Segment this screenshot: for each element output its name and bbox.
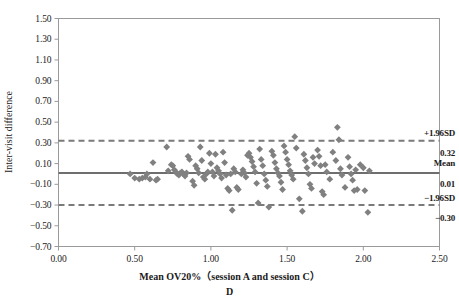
x-axis-tick-marks bbox=[59, 247, 440, 251]
y-tick-label: 1.50 bbox=[35, 14, 51, 24]
x-tick-label: 1.00 bbox=[203, 254, 219, 264]
y-tick-label: 0.30 bbox=[35, 138, 51, 148]
y-tick-label: −0.30 bbox=[30, 200, 51, 210]
y-tick-label: 1.10 bbox=[35, 55, 51, 65]
y-tick-label: 0.10 bbox=[35, 159, 51, 169]
lower-limit-label: −1.96SD bbox=[424, 193, 455, 203]
y-tick-label: 0.50 bbox=[35, 117, 51, 127]
y-tick-label: 0.90 bbox=[35, 76, 51, 86]
x-tick-label: 2.00 bbox=[355, 254, 371, 264]
mean-line-value: 0.01 bbox=[440, 179, 455, 189]
upper-limit-label: +1.96SD bbox=[424, 128, 455, 138]
lower-limit-value: −0.30 bbox=[435, 213, 455, 223]
mean-line-label: Mean bbox=[434, 158, 455, 168]
plot-frame bbox=[59, 19, 440, 247]
x-tick-label: 0.00 bbox=[50, 254, 66, 264]
y-tick-label: −0.50 bbox=[30, 221, 51, 231]
x-tick-label: 0.50 bbox=[127, 254, 143, 264]
plot-canvas bbox=[0, 0, 459, 306]
panel-letter: D bbox=[0, 286, 459, 297]
y-tick-label: −0.70 bbox=[30, 242, 51, 252]
y-axis-title: Inter-visit difference bbox=[3, 91, 14, 173]
x-tick-label: 2.50 bbox=[431, 254, 447, 264]
y-tick-label: 1.30 bbox=[35, 34, 51, 44]
x-axis-title: Mean OV20%（session A and session C） bbox=[0, 268, 459, 283]
y-axis-tick-marks bbox=[55, 19, 59, 247]
upper-limit-value: 0.32 bbox=[440, 148, 455, 158]
x-tick-label: 1.50 bbox=[279, 254, 295, 264]
y-tick-label: −0.10 bbox=[30, 179, 51, 189]
y-tick-label: 0.70 bbox=[35, 96, 51, 106]
bland-altman-figure: 1.501.301.100.900.700.500.300.10−0.10−0.… bbox=[0, 0, 459, 306]
